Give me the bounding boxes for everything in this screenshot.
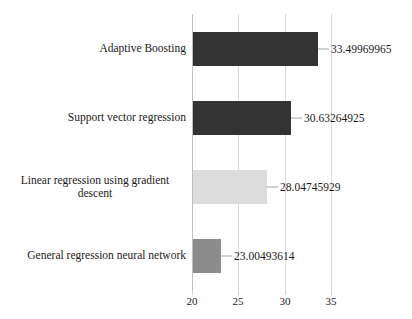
leader-line [291, 117, 302, 118]
x-tick-label-25: 25 [233, 295, 244, 308]
bar-value-label: 33.49969965 [331, 42, 391, 55]
category-label-line1: Linear regression using gradient [21, 173, 170, 185]
plot-area: Adaptive Boosting 33.49969965 Support ve… [192, 14, 332, 290]
bar-row-support-vector-regression: Support vector regression 30.63264925 [192, 83, 332, 152]
category-label: Support vector regression [0, 111, 192, 125]
bar-support-vector-regression[interactable] [193, 101, 291, 135]
bar-value-label: 30.63264925 [304, 111, 364, 124]
category-label: General regression neural network [0, 249, 192, 263]
leader-line [221, 255, 232, 256]
bar-general-regression-neural-network[interactable] [193, 239, 221, 273]
chart-canvas: Adaptive Boosting 33.49969965 Support ve… [0, 0, 412, 319]
x-tick-label-20: 20 [187, 295, 198, 308]
category-label-line2: descent [78, 187, 112, 199]
bar-adaptive-boosting[interactable] [193, 32, 318, 66]
category-label: Adaptive Boosting [0, 42, 192, 56]
category-label: Linear regression using gradientdescent [2, 173, 192, 200]
bar-row-adaptive-boosting: Adaptive Boosting 33.49969965 [192, 14, 332, 83]
leader-line [267, 186, 278, 187]
x-tick-label-35: 35 [326, 295, 337, 308]
bar-row-linear-regression-gradient-descent: Linear regression using gradientdescent … [192, 152, 332, 221]
bar-row-general-regression-neural-network: General regression neural network 23.004… [192, 221, 332, 290]
leader-line [318, 48, 329, 49]
x-axis: 20 25 30 35 [192, 290, 332, 316]
bar-linear-regression-gradient-descent[interactable] [193, 170, 267, 204]
bar-value-label: 28.04745929 [280, 180, 340, 193]
bar-value-label: 23.00493614 [234, 249, 294, 262]
x-tick-label-30: 30 [280, 295, 291, 308]
